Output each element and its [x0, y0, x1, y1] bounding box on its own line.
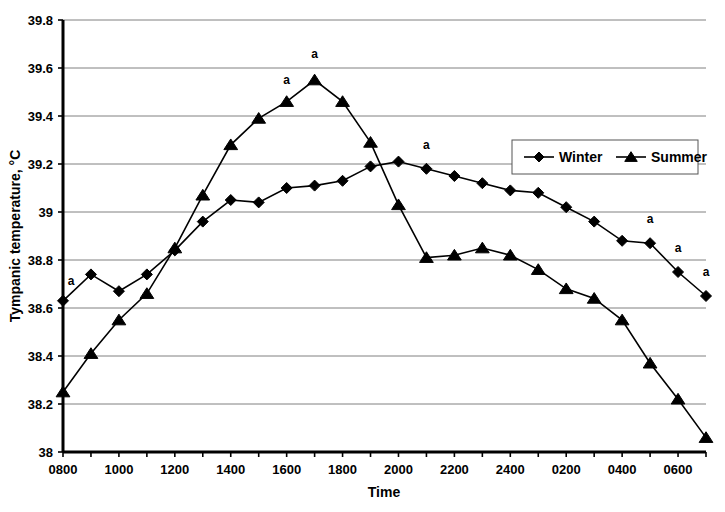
data-point-summer-0800: [56, 386, 70, 397]
x-tick-label-1400: 1400: [216, 462, 245, 477]
y-tick-label-38.2: 38.2: [28, 397, 53, 412]
x-tick-label-1800: 1800: [328, 462, 357, 477]
y-tick-label-39.8: 39.8: [28, 13, 53, 28]
annotation-0: a: [68, 274, 75, 288]
x-tick-label-2400: 2400: [496, 462, 525, 477]
data-point-summer-1500: [252, 113, 266, 124]
data-point-winter-2200: [449, 171, 460, 182]
y-tick-label-38: 38: [39, 445, 53, 460]
series-line-summer: [63, 80, 706, 438]
data-point-winter-2300: [477, 178, 488, 189]
series-winter: [58, 156, 712, 306]
data-point-summer-1900: [364, 137, 378, 148]
y-tick-label-39: 39: [39, 205, 53, 220]
data-point-summer-0700: [699, 432, 713, 443]
data-point-summer-2300: [475, 242, 489, 253]
data-point-winter-0200: [561, 202, 572, 213]
x-tick-label-0800: 0800: [49, 462, 78, 477]
x-tick-label-0600: 0600: [664, 462, 693, 477]
data-point-winter-2000: [393, 156, 404, 167]
data-point-winter-0400: [617, 235, 628, 246]
data-point-winter-1700: [309, 180, 320, 191]
annotation-4: a: [647, 212, 654, 226]
data-point-winter-0300: [589, 216, 600, 227]
x-tick-label-2200: 2200: [440, 462, 469, 477]
data-point-summer-0500: [643, 357, 657, 368]
y-axis-title: Tympanic temperature, °C: [7, 150, 23, 323]
gridlines-group: [63, 20, 706, 404]
data-point-summer-1700: [308, 74, 322, 85]
series-group: [56, 74, 713, 442]
axes-group: [58, 20, 706, 457]
annotation-6: a: [703, 265, 710, 279]
x-tick-label-1000: 1000: [104, 462, 133, 477]
x-tick-label-0200: 0200: [552, 462, 581, 477]
tympanic-temperature-line-chart: 3838.238.438.638.83939.239.439.639.8 080…: [0, 0, 725, 512]
x-axis-title: Time: [368, 484, 401, 500]
data-point-winter-1600: [281, 183, 292, 194]
y-tick-labels-group: 3838.238.438.638.83939.239.439.639.8: [28, 13, 54, 460]
series-line-winter: [63, 162, 706, 301]
data-point-winter-1900: [365, 161, 376, 172]
y-tick-label-39.6: 39.6: [28, 61, 53, 76]
y-tick-label-38.8: 38.8: [28, 253, 53, 268]
x-tick-label-2000: 2000: [384, 462, 413, 477]
data-point-winter-1800: [337, 175, 348, 186]
annotation-3: a: [423, 138, 430, 152]
data-point-summer-2000: [392, 199, 406, 210]
legend[interactable]: WinterSummer: [512, 140, 708, 174]
data-point-winter-2100: [421, 163, 432, 174]
series-summer: [56, 74, 713, 442]
annotation-5: a: [675, 241, 682, 255]
data-point-winter-1500: [253, 197, 264, 208]
data-point-winter-1000: [113, 286, 124, 297]
data-point-summer-1300: [196, 189, 210, 200]
legend-label-winter: Winter: [559, 149, 603, 165]
axis-titles-group: TimeTympanic temperature, °C: [7, 150, 400, 500]
y-tick-label-39.4: 39.4: [28, 109, 54, 124]
data-point-summer-0300: [587, 293, 601, 304]
x-tick-label-0400: 0400: [608, 462, 637, 477]
y-tick-label-38.4: 38.4: [28, 349, 54, 364]
annotation-1: a: [283, 73, 290, 87]
data-point-summer-0600: [671, 393, 685, 404]
x-tick-label-1600: 1600: [272, 462, 301, 477]
data-point-summer-0900: [84, 348, 98, 359]
x-tick-label-1200: 1200: [160, 462, 189, 477]
annotation-2: a: [311, 47, 318, 61]
data-point-winter-0100: [533, 187, 544, 198]
data-point-summer-1100: [140, 288, 154, 299]
legend-label-summer: Summer: [651, 149, 708, 165]
data-point-summer-1200: [168, 242, 182, 253]
y-tick-label-38.6: 38.6: [28, 301, 53, 316]
data-point-summer-0100: [531, 264, 545, 275]
y-tick-label-39.2: 39.2: [28, 157, 53, 172]
x-tick-labels-group: 0800100012001400160018002000220024000200…: [49, 462, 693, 477]
chart-container: 3838.238.438.638.83939.239.439.639.8 080…: [0, 0, 725, 512]
data-point-winter-2400: [505, 185, 516, 196]
